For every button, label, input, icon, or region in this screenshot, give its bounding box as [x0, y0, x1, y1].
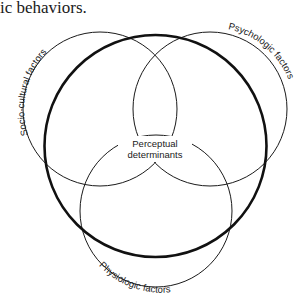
- center-label-line1: Perceptual: [132, 138, 177, 149]
- venn-diagram: Perceptual determinants Socio-cultural f…: [0, 0, 302, 307]
- physiologic-label: Physiologic factors: [97, 259, 171, 295]
- center-label-line2: determinants: [128, 149, 183, 160]
- socio-cultural-label: Socio-cultural factors: [15, 46, 48, 137]
